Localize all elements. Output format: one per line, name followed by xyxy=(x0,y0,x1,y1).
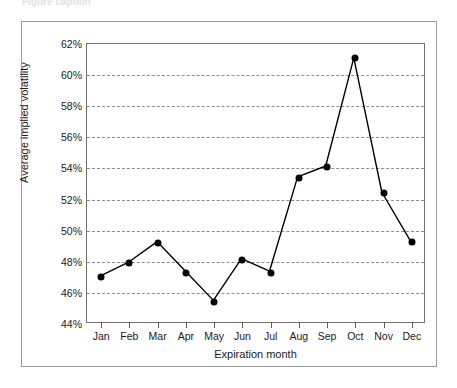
x-axis-tick-mark xyxy=(384,322,385,328)
x-axis-tick-label: Jul xyxy=(264,330,277,342)
data-point xyxy=(126,260,133,267)
x-axis-tick-mark xyxy=(214,322,215,328)
chart-figure: Figure caption Average implied volatilit… xyxy=(0,0,457,388)
x-axis-tick-mark xyxy=(129,322,130,328)
x-axis-tick-mark xyxy=(186,322,187,328)
y-axis-tick-label: 56% xyxy=(61,131,82,143)
data-point xyxy=(324,163,331,170)
data-point xyxy=(154,240,161,247)
data-point xyxy=(239,257,246,264)
data-point xyxy=(408,238,415,245)
plot-area: 44%46%48%50%52%54%56%58%60%62% JanFebMar… xyxy=(86,43,425,323)
y-axis-tick-label: 50% xyxy=(61,225,82,237)
x-axis-tick-label: May xyxy=(204,330,224,342)
x-axis-tick-mark xyxy=(242,322,243,328)
x-axis-tick-mark xyxy=(101,322,102,328)
x-axis-tick-mark xyxy=(299,322,300,328)
data-series xyxy=(87,44,424,322)
x-axis-tick-label: Oct xyxy=(347,330,363,342)
x-axis-tick-label: Mar xyxy=(149,330,167,342)
data-point xyxy=(352,55,359,62)
data-point xyxy=(380,190,387,197)
x-axis-tick-label: Dec xyxy=(403,330,422,342)
y-axis-title: Average implied volatility xyxy=(18,62,30,183)
x-axis-tick-label: Aug xyxy=(290,330,309,342)
data-point xyxy=(211,299,218,306)
x-axis-tick-label: Apr xyxy=(178,330,194,342)
y-axis-tick-label: 54% xyxy=(61,162,82,174)
data-point xyxy=(267,269,274,276)
y-axis-tick-label: 52% xyxy=(61,194,82,206)
x-axis-tick-label: Feb xyxy=(120,330,138,342)
x-axis-tick-mark xyxy=(412,322,413,328)
x-axis-tick-label: Sep xyxy=(318,330,337,342)
y-axis-tick-label: 48% xyxy=(61,256,82,268)
x-axis-tick-mark xyxy=(327,322,328,328)
data-point xyxy=(98,274,105,281)
x-axis-tick-mark xyxy=(158,322,159,328)
y-axis-tick-label: 46% xyxy=(61,287,82,299)
figure-border: Average implied volatility 44%46%48%50%5… xyxy=(21,21,437,367)
x-axis-tick-mark xyxy=(355,322,356,328)
y-axis-tick-label: 60% xyxy=(61,69,82,81)
x-axis-tick-label: Jun xyxy=(234,330,251,342)
y-axis-tick-label: 62% xyxy=(61,38,82,50)
x-axis-tick-mark xyxy=(271,322,272,328)
x-axis-tick-label: Nov xyxy=(374,330,393,342)
figure-caption: Figure caption xyxy=(22,0,282,8)
data-line xyxy=(101,58,410,300)
x-axis-tick-label: Jan xyxy=(93,330,110,342)
data-point xyxy=(182,269,189,276)
data-point xyxy=(295,174,302,181)
y-axis-tick-label: 58% xyxy=(61,100,82,112)
y-axis-tick-label: 44% xyxy=(61,318,82,330)
x-axis-title: Expiration month xyxy=(87,348,424,360)
